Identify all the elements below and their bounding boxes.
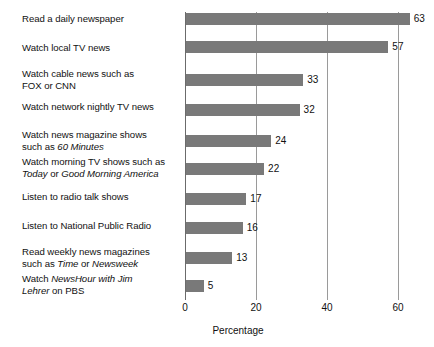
category-label-watch-morning-tv-shows: Watch morning TV shows such asToday or G… (22, 156, 182, 179)
category-label-column: Read a daily newspaperWatch local TV new… (0, 0, 178, 347)
bar-watch-cable-news (186, 74, 303, 86)
bar-value-watch-newshour: 5 (208, 280, 214, 292)
bar-value-listen-to-radio-talk-shows: 17 (250, 193, 261, 205)
bar-listen-to-radio-talk-shows (186, 193, 246, 205)
x-tick-label-40: 40 (321, 302, 332, 314)
bar-watch-morning-tv-shows (186, 163, 264, 175)
x-tick-label-20: 20 (250, 302, 261, 314)
bar-watch-newshour (186, 280, 204, 292)
bar-chart-figure: Read a daily newspaperWatch local TV new… (0, 0, 434, 347)
category-label-read-daily-newspaper: Read a daily newspaper (22, 13, 182, 25)
bar-watch-local-tv-news (186, 41, 388, 53)
bar-read-weekly-news-magazines (186, 252, 232, 264)
bar-watch-news-magazine-shows (186, 135, 271, 147)
category-label-read-weekly-news-magazines: Read weekly news magazinessuch as Time o… (22, 246, 182, 269)
x-axis-title: Percentage (0, 325, 434, 336)
category-label-watch-newshour: Watch NewsHour with JimLehrer on PBS (22, 273, 182, 296)
x-tick-label-0: 0 (182, 302, 188, 314)
bar-value-watch-cable-news: 33 (307, 74, 318, 86)
gridline-40 (327, 12, 328, 300)
bar-read-daily-newspaper (186, 13, 410, 25)
bar-value-read-weekly-news-magazines: 13 (236, 252, 247, 264)
category-label-watch-network-nightly-tv-news: Watch network nightly TV news (22, 101, 182, 113)
bar-value-read-daily-newspaper: 63 (414, 13, 425, 25)
category-label-listen-to-radio-talk-shows: Listen to radio talk shows (22, 191, 182, 203)
gridline-20 (256, 12, 257, 300)
bar-value-watch-network-nightly-tv-news: 32 (304, 104, 315, 116)
x-axis-title-text: Percentage (212, 325, 263, 336)
category-label-watch-local-tv-news: Watch local TV news (22, 42, 182, 54)
bar-watch-network-nightly-tv-news (186, 104, 300, 116)
bar-listen-to-national-public-radio (186, 222, 243, 234)
bar-value-listen-to-national-public-radio: 16 (247, 222, 258, 234)
category-label-watch-cable-news: Watch cable news such asFOX or CNN (22, 68, 182, 91)
bar-value-watch-morning-tv-shows: 22 (268, 163, 279, 175)
category-label-watch-news-magazine-shows: Watch news magazine showssuch as 60 Minu… (22, 129, 182, 152)
plot-area: 6357333224221716135 (185, 12, 398, 300)
category-label-listen-to-national-public-radio: Listen to National Public Radio (22, 220, 182, 232)
x-tick-label-60: 60 (392, 302, 403, 314)
gridline-60 (398, 12, 399, 300)
bar-value-watch-news-magazine-shows: 24 (275, 135, 286, 147)
bar-value-watch-local-tv-news: 57 (392, 41, 403, 53)
